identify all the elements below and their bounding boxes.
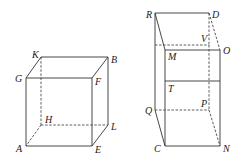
vertex-label-E: E — [94, 144, 101, 155]
vertex-label-D: D — [211, 9, 220, 20]
edge-R-M — [155, 13, 165, 50]
vertex-label-Q: Q — [145, 105, 153, 116]
vertex-label-O: O — [223, 45, 230, 56]
vertex-label-T: T — [168, 83, 175, 94]
prism-figure: RDVOMTQPCN — [145, 9, 231, 154]
vertex-label-F: F — [94, 76, 102, 87]
edge-Q-C — [155, 110, 165, 146]
geometry-diagram: KBGFHLAE RDVOMTQPCN — [0, 0, 246, 165]
cube-figure: KBGFHLAE — [15, 49, 117, 155]
hidden-edge-P-N — [209, 110, 220, 146]
vertex-label-A: A — [15, 143, 23, 154]
vertex-label-H: H — [44, 114, 53, 125]
edge-F-B — [92, 57, 108, 78]
vertex-label-B: B — [111, 54, 117, 65]
vertex-label-K: K — [31, 49, 40, 60]
vertex-label-L: L — [110, 121, 117, 132]
vertex-label-G: G — [15, 73, 22, 84]
hidden-edge-H-A — [26, 125, 41, 146]
edge-E-L — [92, 125, 108, 146]
vertex-label-N: N — [222, 143, 231, 154]
vertex-label-M: M — [167, 51, 177, 62]
vertex-label-P: P — [200, 98, 207, 109]
vertex-label-R: R — [145, 9, 152, 20]
edge-G-K — [26, 57, 41, 78]
vertex-label-C: C — [154, 143, 161, 154]
vertex-label-V: V — [201, 33, 209, 44]
